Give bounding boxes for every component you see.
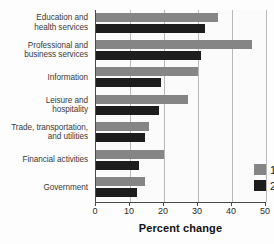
bar — [96, 106, 159, 115]
legend-label: 2002–2012 — [270, 180, 274, 192]
legend-label: 1992–2002 — [270, 164, 274, 176]
bar-group — [96, 13, 266, 40]
bar — [96, 122, 149, 131]
category-label-line: Professional and — [24, 41, 88, 50]
bar — [96, 95, 188, 104]
legend: 1992–20022002–2012 — [254, 162, 274, 194]
plot-area: 1992–20022002–2012 — [95, 10, 266, 202]
category-label-line: hospitality — [46, 105, 88, 114]
bar-group — [96, 67, 266, 94]
bar — [96, 67, 198, 76]
bar-group — [96, 95, 266, 122]
bar-group — [96, 177, 266, 204]
bar — [96, 161, 139, 170]
category-label-line: Leisure and — [46, 96, 88, 105]
bar — [96, 24, 205, 33]
bar — [96, 188, 137, 197]
bar — [96, 13, 218, 22]
legend-item: 1992–2002 — [254, 162, 274, 177]
category-label-line: Financial activities — [23, 155, 88, 164]
category-label-line: business services — [24, 50, 88, 59]
bar — [96, 133, 145, 142]
x-axis-line — [95, 202, 266, 203]
bar — [96, 40, 252, 49]
chart-title — [0, 0, 274, 7]
x-axis-tick-label: 30 — [192, 206, 202, 216]
category-label-line: health services — [34, 23, 88, 32]
bar — [96, 177, 145, 186]
category-label: Information — [48, 73, 88, 82]
x-axis-tick-label: 0 — [92, 206, 97, 216]
category-label-line: Trade, transportation, — [11, 123, 88, 132]
category-label: Education andhealth services — [34, 13, 88, 32]
category-label-line: and utilities — [11, 132, 88, 141]
category-label: Trade, transportation,and utilities — [11, 123, 88, 142]
category-label-column: Education andhealth servicesProfessional… — [0, 10, 92, 202]
category-label-line: Information — [48, 73, 88, 82]
bar-group — [96, 122, 266, 149]
bar-group — [96, 150, 266, 177]
category-label: Leisure andhospitality — [46, 96, 88, 115]
legend-swatch — [254, 164, 266, 175]
x-axis-tick-label: 20 — [158, 206, 168, 216]
category-label: Financial activities — [23, 155, 88, 164]
bar-group — [96, 40, 266, 67]
legend-swatch — [254, 180, 266, 191]
category-label-line: Government — [43, 183, 88, 192]
category-label-line: Education and — [34, 13, 88, 22]
legend-item: 2002–2012 — [254, 178, 274, 193]
x-axis-label: Percent change — [95, 222, 266, 234]
bar — [96, 51, 201, 60]
x-axis-tick-label: 40 — [226, 206, 236, 216]
category-label: Professional andbusiness services — [24, 41, 88, 60]
category-label: Government — [43, 183, 88, 192]
x-axis-tick-label: 50 — [260, 206, 270, 216]
x-axis-tick-label: 10 — [124, 206, 134, 216]
bar — [96, 150, 164, 159]
bar — [96, 78, 161, 87]
bar-chart: Education andhealth servicesProfessional… — [0, 0, 274, 244]
